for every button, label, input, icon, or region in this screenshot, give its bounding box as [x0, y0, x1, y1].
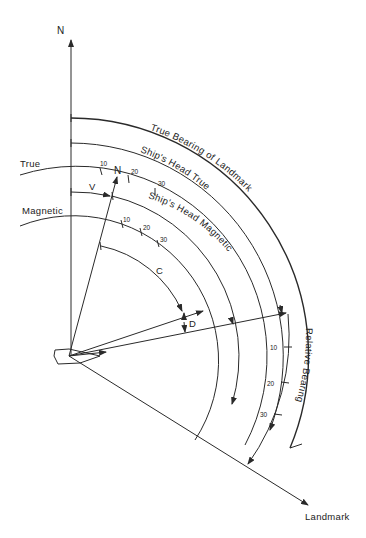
variation-label: V	[89, 181, 96, 192]
deviation-label: D	[189, 318, 196, 329]
landmark-line	[69, 356, 308, 505]
deviation-arrow-down	[184, 322, 185, 332]
compass-course-arc	[101, 246, 182, 311]
bearing-diagram: N True 10 20 30 N V Magnetic 10 20 30 C …	[0, 0, 366, 538]
landmark-label: Landmark	[305, 511, 350, 522]
variation-arc	[71, 192, 110, 196]
compass-course-label: C	[156, 265, 163, 276]
magnetic-tick-30: 30	[160, 236, 168, 243]
relative-tick-20: 20	[267, 380, 275, 387]
relative-bearing-label: Relative Bearing	[294, 328, 315, 404]
relative-tick-30: 30	[260, 411, 268, 418]
true-tick-10: 10	[100, 160, 108, 167]
magnetic-north-line	[69, 177, 117, 356]
true-label: True	[20, 158, 40, 169]
magnetic-label: Magnetic	[22, 205, 63, 216]
true-tick-20: 20	[131, 168, 139, 175]
magnetic-tick-20: 20	[143, 224, 151, 231]
compass-north-label: N	[114, 165, 121, 176]
magnetic-tick-10: 10	[123, 216, 131, 223]
true-tick-30: 30	[158, 180, 166, 187]
relative-tick-10: 10	[270, 344, 278, 351]
relative-bearing-arc	[248, 314, 289, 464]
ships-head-magnetic-label: Ship's Head Magnetic	[147, 189, 235, 253]
north-label: N	[57, 25, 64, 36]
